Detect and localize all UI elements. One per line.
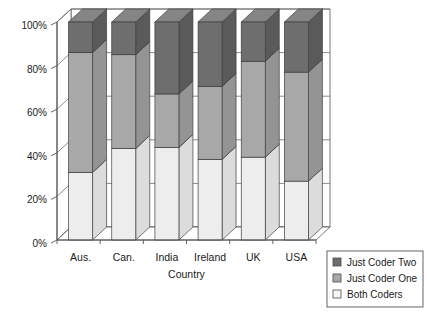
x-axis-title: Country xyxy=(168,268,206,280)
segment-front-face xyxy=(198,22,222,86)
x-category-label: USA xyxy=(286,251,308,263)
segment-both-coders xyxy=(241,144,279,240)
bar-ireland xyxy=(198,9,236,240)
segment-front-face xyxy=(69,22,93,53)
x-category-labels: Aus.Can.IndiaIrelandUKUSA xyxy=(70,251,307,263)
legend-swatch xyxy=(333,258,341,266)
bar-aus xyxy=(69,9,107,240)
y-tick-mark xyxy=(51,196,57,199)
x-category-label: UK xyxy=(246,251,261,263)
chart-legend: Just Coder TwoJust Coder OneBoth Coders xyxy=(327,251,423,307)
bar-india xyxy=(155,9,193,240)
legend-swatch xyxy=(333,290,341,298)
segment-front-face xyxy=(284,181,308,240)
segment-side-face xyxy=(265,48,279,157)
y-tick-label: 20% xyxy=(27,194,47,205)
segment-side-face xyxy=(93,40,107,173)
chart-container: 0%20%40%60%80%100% Aus.Can.IndiaIrelandU… xyxy=(0,0,427,316)
segment-front-face xyxy=(112,22,136,55)
x-category-label: Aus. xyxy=(70,251,91,263)
y-tick-labels: 0%20%40%60%80%100% xyxy=(21,20,47,249)
bar-usa xyxy=(284,9,322,240)
bar-uk xyxy=(241,9,279,240)
segment-just-coder-one xyxy=(284,59,322,181)
segment-just-coder-two xyxy=(198,9,236,86)
segment-front-face xyxy=(284,22,308,72)
segment-just-coder-one xyxy=(69,40,107,173)
segment-front-face xyxy=(198,159,222,240)
segment-side-face xyxy=(136,42,150,149)
legend-label: Just Coder One xyxy=(347,273,417,284)
segment-just-coder-two xyxy=(284,9,322,72)
y-axis xyxy=(51,22,57,243)
segment-just-coder-two xyxy=(155,9,193,94)
segment-side-face xyxy=(179,9,193,94)
y-tick-mark xyxy=(51,109,57,112)
segment-front-face xyxy=(284,72,308,181)
x-axis xyxy=(57,240,316,244)
y-tick-mark xyxy=(51,22,57,25)
segment-side-face xyxy=(222,9,236,86)
y-tick-label: 0% xyxy=(33,238,48,249)
legend-label: Both Coders xyxy=(347,289,403,300)
segment-side-face xyxy=(308,59,322,181)
stacked-column-chart: 0%20%40%60%80%100% Aus.Can.IndiaIrelandU… xyxy=(0,0,427,316)
segment-just-coder-one xyxy=(112,42,150,149)
segment-side-face xyxy=(136,135,150,240)
y-tick-label: 100% xyxy=(21,20,47,31)
segment-just-coder-two xyxy=(241,9,279,61)
bar-can xyxy=(112,9,150,240)
segment-side-face xyxy=(222,146,236,240)
y-tick-label: 40% xyxy=(27,151,47,162)
y-tick-mark xyxy=(51,66,57,69)
segment-front-face xyxy=(155,94,179,147)
segment-front-face xyxy=(155,147,179,240)
segment-front-face xyxy=(198,86,222,159)
segment-both-coders xyxy=(198,146,236,240)
y-tick-label: 60% xyxy=(27,107,47,118)
segment-front-face xyxy=(155,22,179,94)
segment-front-face xyxy=(241,22,265,61)
segment-both-coders xyxy=(112,135,150,240)
segment-both-coders xyxy=(155,134,193,240)
segment-side-face xyxy=(179,134,193,240)
legend-label: Just Coder Two xyxy=(347,257,417,268)
segment-front-face xyxy=(69,172,93,240)
segment-front-face xyxy=(112,55,136,149)
segment-front-face xyxy=(241,157,265,240)
segment-side-face xyxy=(222,73,236,159)
segment-side-face xyxy=(265,144,279,240)
x-category-label: Can. xyxy=(113,251,135,263)
segment-front-face xyxy=(112,148,136,240)
segment-just-coder-one xyxy=(241,48,279,157)
segment-side-face xyxy=(93,159,107,240)
segment-front-face xyxy=(241,61,265,157)
y-tick-mark xyxy=(51,153,57,156)
x-category-label: India xyxy=(156,251,179,263)
y-tick-label: 80% xyxy=(27,64,47,75)
y-tick-mark xyxy=(51,240,57,243)
segment-front-face xyxy=(69,53,93,173)
x-category-label: Ireland xyxy=(194,251,226,263)
legend-swatch xyxy=(333,274,341,282)
x-axis-title: Country xyxy=(168,268,206,280)
